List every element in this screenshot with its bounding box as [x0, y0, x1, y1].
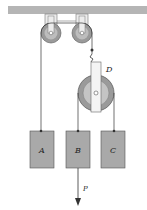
fixed-pulley-right: [72, 16, 92, 43]
pulley-diagram: D A B C P: [0, 0, 147, 210]
hook-icon: [90, 49, 94, 65]
force-P-label: P: [82, 185, 88, 193]
block-B-label: B: [74, 146, 81, 155]
force-arrow-P: [75, 168, 81, 206]
ceiling: [8, 6, 147, 14]
block-C-label: C: [110, 146, 116, 155]
block-A-label: A: [38, 146, 45, 155]
fixed-pulley-left: [41, 16, 61, 43]
pulley-D-label: D: [105, 65, 113, 74]
